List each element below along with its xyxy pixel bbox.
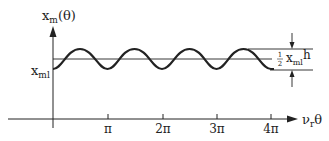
tick-label-pi: π (104, 122, 112, 136)
baseline-label: xml (31, 63, 50, 80)
x-axis-label: νrθ (302, 112, 322, 129)
tick-label-3pi: 3π (209, 122, 225, 136)
tick-label-4pi: 4π (263, 122, 279, 136)
x-axis (8, 116, 298, 123)
svg-text:xmlh: xmlh (286, 48, 311, 67)
down-arrow-icon (290, 42, 295, 49)
x-axis-arrow-icon (287, 116, 298, 123)
x-ticks (108, 114, 271, 119)
tick-label-2pi: 2π (155, 122, 171, 136)
waveform-diagram: π 2π 3π 4π xm(θ) xml 1 2 xmlh νrθ (0, 0, 329, 141)
y-axis (50, 26, 57, 128)
y-axis-arrow-icon (50, 26, 57, 37)
up-arrow-icon (290, 70, 295, 77)
amplitude-label: 1 2 xmlh (277, 48, 311, 68)
y-axis-label: xm(θ) (42, 8, 76, 25)
svg-text:1: 1 (278, 51, 282, 59)
svg-text:2: 2 (278, 60, 282, 68)
